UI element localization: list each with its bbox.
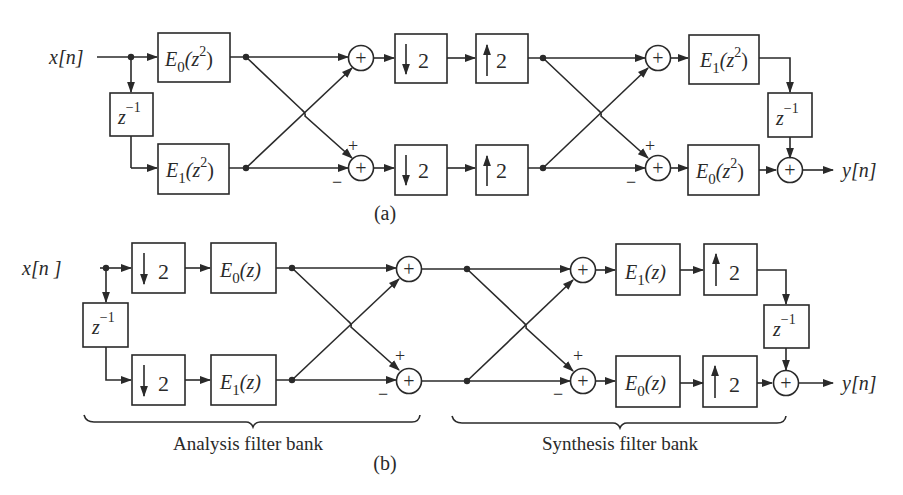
b-e1-synthesis-text: E1(z)	[624, 261, 666, 288]
a-part-label: (a)	[374, 202, 396, 225]
svg-text:E0(z): E0(z)	[624, 372, 666, 399]
svg-text:z−1: z−1	[772, 312, 796, 340]
svg-text:E0(z): E0(z)	[219, 259, 261, 286]
svg-text:+: +	[652, 47, 663, 69]
svg-text:z−1: z−1	[775, 101, 799, 129]
synthesis-filter-bank-label: Synthesis filter bank	[542, 433, 699, 454]
svg-text:−: −	[553, 384, 563, 404]
svg-text:−: −	[378, 384, 388, 404]
svg-text:+: +	[784, 159, 795, 181]
synthesis-brace	[452, 416, 786, 428]
b-input-label: x[n ]	[21, 257, 61, 279]
svg-text:E0(z2): E0(z2)	[164, 44, 213, 75]
a-e1-synthesis-text: E1(z2)	[699, 45, 748, 76]
a-down-top-factor: 2	[418, 48, 429, 73]
a-delay-in-text: z−1	[117, 100, 141, 128]
svg-text:+: +	[395, 346, 405, 366]
a-input-label: x[n]	[48, 46, 83, 68]
part-b-diagram	[83, 243, 833, 428]
analysis-brace	[84, 415, 420, 427]
svg-text:+: +	[403, 370, 414, 392]
a-e0-synthesis-text: E0(z2)	[695, 156, 744, 187]
b-e0-analysis-text: E0(z)	[219, 259, 261, 286]
a-e1-analysis-text: E1(z2)	[165, 155, 214, 186]
svg-text:+: +	[348, 136, 358, 156]
b-up-top-factor: 2	[729, 260, 740, 285]
b-output-label: y[n]	[840, 372, 876, 395]
svg-text:E1(z2): E1(z2)	[699, 45, 748, 76]
svg-text:+: +	[577, 259, 588, 281]
svg-text:+: +	[645, 136, 655, 156]
a-output-label: y[n]	[840, 159, 876, 182]
a-up-bottom-factor: 2	[496, 158, 507, 183]
b-down-top-factor: 2	[158, 259, 169, 284]
svg-text:+: +	[403, 258, 414, 280]
b-delay-in-text: z−1	[91, 310, 115, 338]
a-down-bottom-factor: 2	[418, 158, 429, 183]
svg-text:+: +	[652, 157, 663, 179]
svg-text:E1(z2): E1(z2)	[165, 155, 214, 186]
svg-text:E1(z): E1(z)	[624, 261, 666, 288]
a-up-top-factor: 2	[496, 48, 507, 73]
analysis-filter-bank-label: Analysis filter bank	[173, 433, 323, 454]
svg-text:+: +	[577, 370, 588, 392]
svg-text:E0(z2): E0(z2)	[695, 156, 744, 187]
svg-text:+: +	[780, 372, 791, 394]
a-e0-analysis-text: E0(z2)	[164, 44, 213, 75]
b-part-label: (b)	[373, 452, 396, 475]
polyphase-filter-bank-diagram: x[n] y[n] E0(z2) E1(z2) z−1 2 2 2 2 E1(z…	[0, 0, 903, 495]
b-down-bottom-factor: 2	[158, 371, 169, 396]
a-delay-out-text: z−1	[775, 101, 799, 129]
svg-text:+: +	[355, 47, 366, 69]
svg-text:−: −	[626, 172, 636, 192]
svg-text:−: −	[332, 172, 342, 192]
svg-text:z−1: z−1	[117, 100, 141, 128]
svg-text:E1(z): E1(z)	[219, 371, 261, 398]
svg-text:+: +	[573, 346, 583, 366]
svg-text:z−1: z−1	[91, 310, 115, 338]
b-delay-out-text: z−1	[772, 312, 796, 340]
b-e0-synthesis-text: E0(z)	[624, 372, 666, 399]
svg-text:+: +	[355, 157, 366, 179]
b-up-bottom-factor: 2	[729, 372, 740, 397]
b-e1-analysis-text: E1(z)	[219, 371, 261, 398]
